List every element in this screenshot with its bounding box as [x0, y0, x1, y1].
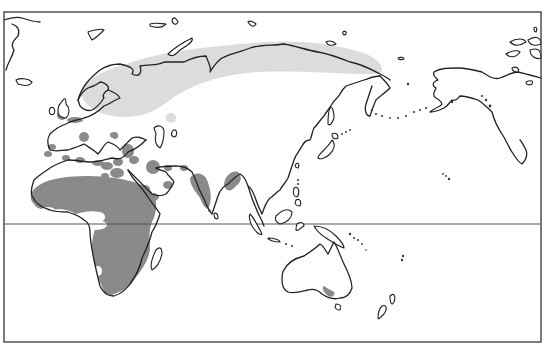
island-chains [285, 83, 491, 261]
breeding-range [80, 42, 382, 117]
breeding-range-patch [166, 113, 176, 123]
wintering-range-africa [31, 176, 157, 295]
range-map [0, 0, 546, 348]
